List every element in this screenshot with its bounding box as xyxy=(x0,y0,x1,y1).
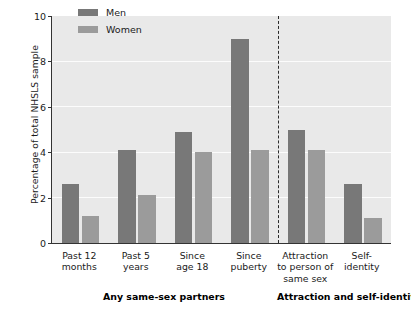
chart-figure: Percentage of total NHSLS sample 0246810… xyxy=(0,0,411,309)
y-axis-tick xyxy=(48,198,52,199)
bar-women-4 xyxy=(308,150,326,243)
legend-label-men: Men xyxy=(106,7,126,18)
y-axis-tick xyxy=(48,107,52,108)
bar-women-3 xyxy=(251,150,269,243)
bar-women-0 xyxy=(82,216,100,243)
bar-men-1 xyxy=(118,150,136,243)
legend-swatch-men xyxy=(78,9,98,16)
bar-men-3 xyxy=(231,39,249,243)
y-axis-tick xyxy=(48,152,52,153)
bar-women-1 xyxy=(138,195,156,243)
y-axis-tick-label: 8 xyxy=(40,56,46,67)
section-divider xyxy=(278,16,279,243)
bar-women-2 xyxy=(195,152,213,243)
y-axis-tick-label: 0 xyxy=(40,238,46,249)
plot-area: 0246810 xyxy=(51,16,391,244)
bar-men-4 xyxy=(288,130,306,244)
legend-item-men: Men xyxy=(78,7,142,18)
x-axis-category-line: identity xyxy=(326,261,399,272)
gridline xyxy=(52,61,391,62)
x-axis-category-line: Self- xyxy=(326,250,399,261)
y-axis-tick xyxy=(48,16,52,17)
y-axis-tick-label: 10 xyxy=(34,11,46,22)
group-label: Attraction and self-identity xyxy=(277,291,390,302)
x-axis-category-label: Self-identity xyxy=(326,250,399,273)
gridline xyxy=(52,106,391,107)
legend-label-women: Women xyxy=(106,24,142,35)
y-axis-tick-label: 4 xyxy=(40,147,46,158)
y-axis-tick-label: 6 xyxy=(40,101,46,112)
y-axis-tick-label: 2 xyxy=(40,192,46,203)
bar-men-5 xyxy=(344,184,362,243)
x-axis-category-line: same sex xyxy=(269,273,342,284)
bar-men-2 xyxy=(175,132,193,243)
group-label: Any same-sex partners xyxy=(51,291,277,302)
bar-women-5 xyxy=(364,218,382,243)
y-axis-tick xyxy=(48,243,52,244)
y-axis-title: Percentage of total NHSLS sample xyxy=(29,5,40,245)
y-axis-tick xyxy=(48,61,52,62)
bar-men-0 xyxy=(62,184,80,243)
gridline xyxy=(52,152,391,153)
legend-item-women: Women xyxy=(78,24,142,35)
gridline xyxy=(52,197,391,198)
chart-legend: Men Women xyxy=(78,7,142,41)
legend-swatch-women xyxy=(78,26,98,33)
